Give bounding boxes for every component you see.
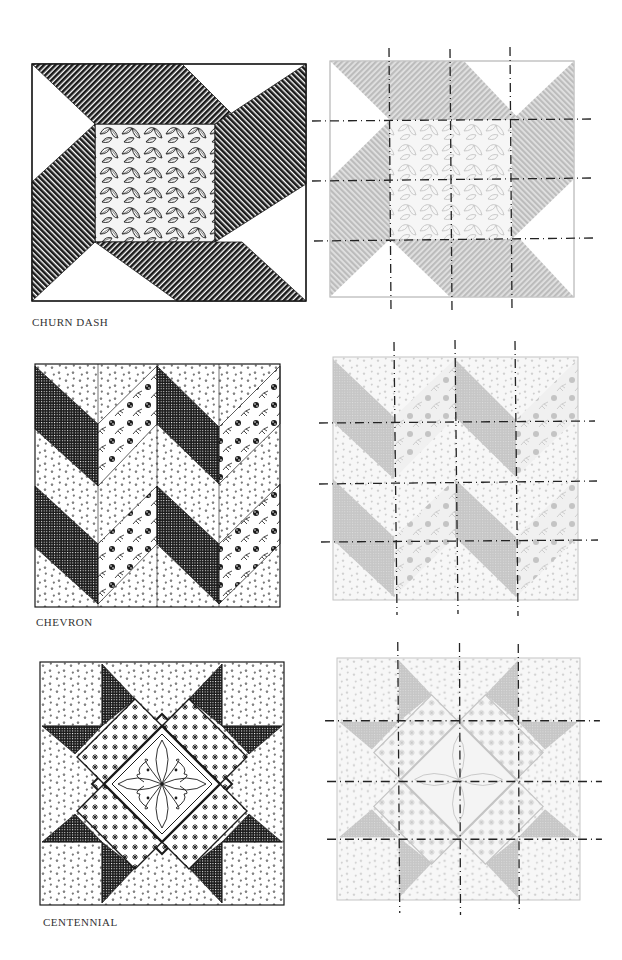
chevron-block-illustration	[35, 364, 280, 607]
block-label-chevron: CHEVRON	[36, 616, 93, 628]
churn-dash-block-illustration	[32, 64, 306, 301]
centennial-block-illustration	[40, 662, 284, 905]
block-label-centennial: CENTENNIAL	[43, 916, 118, 928]
block-label-churn-dash: CHURN DASH	[32, 316, 108, 328]
chevron-cutting-diagram	[333, 357, 578, 600]
centennial-cutting-diagram	[337, 658, 580, 900]
churn-dash-cutting-diagram	[330, 61, 574, 297]
